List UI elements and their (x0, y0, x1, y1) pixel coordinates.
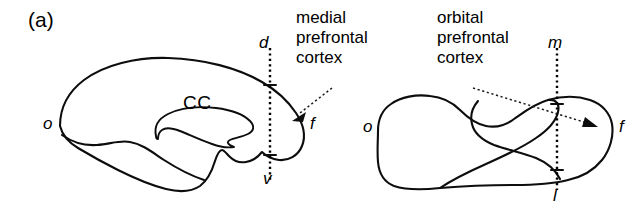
left-callout-leader-line (300, 88, 332, 113)
corpus-callosum-label: CC (183, 92, 211, 114)
medial-brain-inferior-sulcus (62, 135, 204, 180)
orbital-brain-outline (378, 95, 613, 189)
left-axis-ventral-label: v (263, 169, 272, 189)
left-brain-outline-group (60, 48, 332, 191)
left-frontal-pole-label: f (310, 114, 315, 134)
left-callout-arrowhead (292, 112, 306, 122)
right-brain-outline-group (378, 48, 613, 190)
left-callout-line-2: prefrontal (296, 28, 368, 48)
panel-label: (a) (28, 8, 54, 32)
left-occipital-pole-label: o (43, 114, 52, 134)
right-callout-line-1: orbital (437, 8, 509, 28)
right-frontal-pole-label: f (619, 117, 624, 137)
right-callout-arrowhead (582, 117, 598, 127)
left-axis-dorsal-label: d (259, 33, 268, 53)
right-callout-line-3: cortex (437, 48, 509, 68)
left-callout-line-3: cortex (296, 48, 368, 68)
figure-panel-a: (a) medial prefrontal cortex orbital pre… (0, 0, 644, 220)
left-callout-line-1: medial (296, 8, 368, 28)
right-callout-label: orbital prefrontal cortex (437, 8, 509, 68)
right-callout-line-2: prefrontal (437, 28, 509, 48)
right-axis-lateral-label: l (553, 186, 557, 206)
right-callout-leader-line (473, 88, 587, 123)
right-occipital-pole-label: o (363, 117, 372, 137)
orbital-medial-edge-curve (440, 100, 559, 188)
orbital-inner-sulcus-curve (471, 101, 560, 179)
right-axis-medial-label: m (548, 33, 562, 53)
left-callout-label: medial prefrontal cortex (296, 8, 368, 68)
